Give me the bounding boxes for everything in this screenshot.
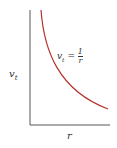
y-axis-label: vt [9, 68, 17, 82]
x-axis-label: r [67, 130, 72, 141]
equation-label: vt = 1r [57, 48, 83, 65]
plot-area [0, 0, 117, 148]
